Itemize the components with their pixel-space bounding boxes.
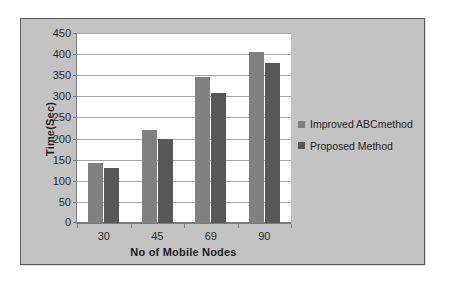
x-axis-tick xyxy=(291,224,292,228)
y-axis-label: 100 xyxy=(53,175,71,186)
plot-area: 05010015020025030035040045030456990 xyxy=(76,33,291,224)
y-axis-title-label: Time(Sec) xyxy=(44,101,56,155)
legend-swatch-icon xyxy=(298,142,305,149)
y-axis-tick xyxy=(73,54,77,55)
y-axis-label: 50 xyxy=(59,196,71,207)
bar-69-series0 xyxy=(195,77,210,224)
x-axis-title: No of Mobile Nodes xyxy=(76,246,291,258)
legend-label: Improved ABCmethod xyxy=(310,119,413,130)
legend-item-1[interactable]: Proposed Method xyxy=(298,141,422,152)
bar-90-series1 xyxy=(265,63,280,223)
y-axis-label: 0 xyxy=(65,217,71,228)
x-axis-tick xyxy=(131,224,132,228)
y-axis-label: 350 xyxy=(53,70,71,81)
y-axis-tick xyxy=(73,96,77,97)
x-axis-tick xyxy=(238,224,239,228)
legend-item-0[interactable]: Improved ABCmethod xyxy=(298,119,422,130)
x-axis-tick xyxy=(77,224,78,228)
y-axis-label: 150 xyxy=(53,154,71,165)
x-axis-label: 45 xyxy=(151,231,163,242)
y-axis-tick xyxy=(73,222,77,223)
y-axis-tick xyxy=(73,160,77,161)
x-axis-label: 30 xyxy=(98,231,110,242)
y-axis-tick xyxy=(73,75,77,76)
y-gridline xyxy=(77,33,291,34)
bar-30-series0 xyxy=(88,163,103,223)
bar-69-series1 xyxy=(211,93,226,223)
y-axis-label: 400 xyxy=(53,49,71,60)
bar-45-series1 xyxy=(158,139,173,223)
legend-swatch-icon xyxy=(298,121,305,128)
chart-legend: Improved ABCmethodProposed Method xyxy=(298,119,422,162)
y-axis-label: 250 xyxy=(53,112,71,123)
y-axis-title: Time(Sec) xyxy=(43,33,57,224)
legend-label: Proposed Method xyxy=(310,141,393,152)
y-axis-tick xyxy=(73,139,77,140)
bar-30-series1 xyxy=(104,168,119,223)
y-axis-label: 450 xyxy=(53,28,71,39)
y-axis-label: 200 xyxy=(53,133,71,144)
x-axis-tick xyxy=(184,224,185,228)
x-axis-label: 69 xyxy=(205,231,217,242)
x-axis-label: 90 xyxy=(258,231,270,242)
y-axis-tick xyxy=(73,33,77,34)
bar-45-series0 xyxy=(142,130,157,223)
y-axis-tick xyxy=(73,181,77,182)
y-axis-tick xyxy=(73,117,77,118)
chart-frame: Time(Sec) 050100150200250300350400450304… xyxy=(20,18,425,265)
bar-90-series0 xyxy=(249,52,264,223)
y-axis-label: 300 xyxy=(53,91,71,102)
y-axis-tick xyxy=(73,202,77,203)
